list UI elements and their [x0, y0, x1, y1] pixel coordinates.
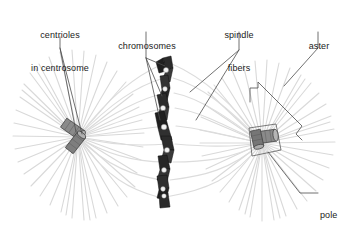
chromosome: [155, 111, 172, 140]
mitotic-spindle-diagram: centrioles in centrosome chromosomes spi…: [0, 0, 355, 225]
label-chromosomes-line1: chromosomes: [105, 41, 189, 52]
label-spindle-fibers-line1: spindle: [208, 30, 270, 41]
label-spindle-fibers-line2: fibers: [208, 63, 270, 74]
label-centrioles-line2: in centrosome: [13, 63, 107, 74]
label-aster-line1: aster: [296, 41, 342, 52]
label-centrioles-line1: centrioles: [13, 30, 107, 41]
label-centrioles: centrioles in centrosome: [13, 8, 107, 96]
label-pole-line1: pole: [320, 210, 350, 221]
chromosome-group: [155, 56, 174, 208]
chromosome: [159, 193, 170, 208]
label-pole: pole: [320, 188, 350, 225]
label-chromosomes: chromosomes: [105, 19, 189, 74]
label-aster: aster: [296, 19, 342, 74]
label-spindle-fibers: spindle fibers: [208, 8, 270, 96]
